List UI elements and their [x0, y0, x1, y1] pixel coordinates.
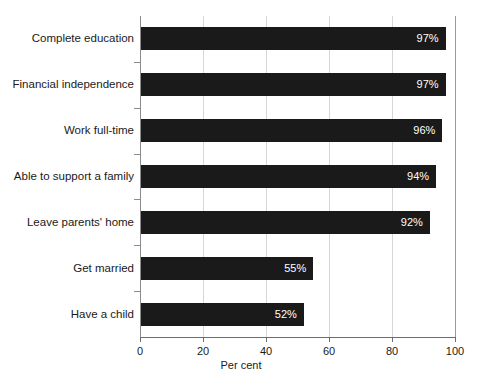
category-label: Financial independence: [13, 73, 134, 96]
bar[interactable]: 94%: [140, 165, 436, 188]
plot-area: 97%97%96%94%92%55%52%: [140, 16, 455, 337]
bar-value-label: 97%: [417, 73, 439, 96]
bar[interactable]: 97%: [140, 27, 446, 50]
bar-value-label: 92%: [401, 211, 423, 234]
x-axis-tick: [203, 337, 204, 342]
category-label: Work full-time: [64, 119, 134, 142]
bar-row[interactable]: 92%: [140, 211, 430, 234]
x-axis-tick: [266, 337, 267, 342]
gridline-100: [455, 16, 456, 337]
bar[interactable]: 97%: [140, 73, 446, 96]
y-axis-tick: [134, 291, 140, 292]
bar-row[interactable]: 94%: [140, 165, 436, 188]
bar[interactable]: 52%: [140, 303, 304, 326]
bar-value-label: 52%: [275, 303, 297, 326]
bar[interactable]: 92%: [140, 211, 430, 234]
bar-value-label: 55%: [284, 257, 306, 280]
x-axis-line: [140, 337, 456, 338]
x-axis-tick: [140, 337, 141, 342]
x-axis-tick-label: 60: [323, 345, 335, 357]
y-axis-tick: [134, 108, 140, 109]
bar-value-label: 97%: [417, 27, 439, 50]
x-axis-tick: [329, 337, 330, 342]
x-axis-tick-label: 40: [260, 345, 272, 357]
bar-chart: 97%97%96%94%92%55%52% Complete education…: [0, 0, 482, 382]
bar-row[interactable]: 97%: [140, 73, 446, 96]
y-axis-tick: [134, 245, 140, 246]
bar[interactable]: 55%: [140, 257, 313, 280]
bar-value-label: 96%: [413, 119, 435, 142]
category-label: Have a child: [71, 303, 134, 326]
x-axis-tick: [455, 337, 456, 342]
x-axis-tick-label: 80: [386, 345, 398, 357]
x-axis-tick-label: 100: [446, 345, 464, 357]
y-axis-tick: [134, 154, 140, 155]
bar[interactable]: 96%: [140, 119, 442, 142]
x-axis-title: Per cent: [0, 359, 482, 371]
y-axis-tick: [134, 199, 140, 200]
bar-row[interactable]: 97%: [140, 27, 446, 50]
bar-row[interactable]: 52%: [140, 303, 304, 326]
category-label: Leave parents' home: [27, 211, 134, 234]
y-axis-tick: [134, 62, 140, 63]
x-axis-tick-label: 20: [197, 345, 209, 357]
x-axis-tick-label: 0: [137, 345, 143, 357]
bar-value-label: 94%: [407, 165, 429, 188]
category-label: Complete education: [32, 27, 134, 50]
y-axis-line: [140, 16, 141, 337]
category-label: Get married: [73, 257, 134, 280]
x-axis-tick: [392, 337, 393, 342]
bar-row[interactable]: 96%: [140, 119, 442, 142]
bar-row[interactable]: 55%: [140, 257, 313, 280]
category-label: Able to support a family: [14, 165, 134, 188]
